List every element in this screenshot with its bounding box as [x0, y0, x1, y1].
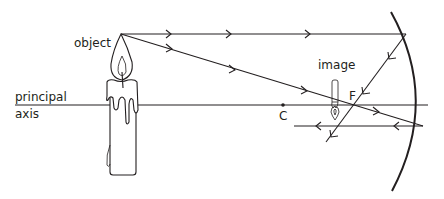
focus-label: F	[349, 89, 356, 103]
ray-diagram: principal axis object image F C	[0, 0, 444, 199]
ray-through-focus-arrows	[166, 44, 379, 115]
concave-mirror	[391, 12, 416, 191]
center-of-curvature-label: C	[279, 109, 287, 123]
principal-axis-label-line2: axis	[15, 107, 39, 121]
image-candle	[331, 80, 339, 120]
object-label: object	[74, 36, 111, 50]
center-of-curvature-point	[281, 103, 285, 107]
object-candle	[107, 34, 138, 175]
principal-axis-label-line1: principal	[15, 90, 67, 104]
image-label: image	[318, 58, 355, 72]
